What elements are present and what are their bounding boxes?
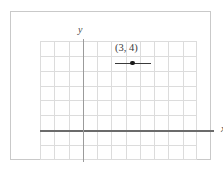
- plotted-point-label: (3, 4): [115, 42, 138, 54]
- grid-edge-right: [196, 41, 197, 160]
- x-axis-line: [40, 130, 214, 131]
- plotted-point-marker: [130, 61, 135, 66]
- y-axis-label: y: [78, 24, 82, 36]
- figure-card-frame: y x (3, 4): [10, 11, 211, 160]
- plot-area: y x (3, 4): [40, 41, 197, 160]
- grid-lines: [40, 41, 197, 160]
- x-axis-label: x: [221, 123, 223, 135]
- y-axis-line: [83, 39, 85, 162]
- coordinate-plane-figure: y x (3, 4): [0, 0, 223, 171]
- grid-edge-bottom: [40, 159, 197, 160]
